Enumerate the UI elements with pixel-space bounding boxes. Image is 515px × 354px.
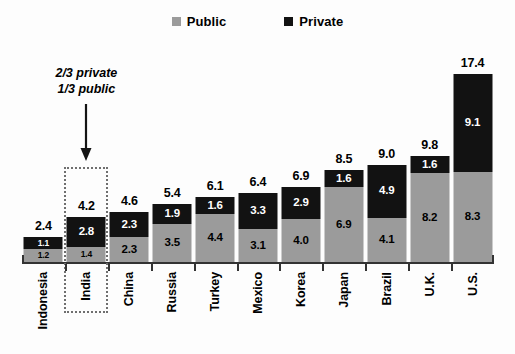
x-tick-label-mexico: Mexico	[237, 272, 280, 350]
bar-total-label: 6.1	[207, 179, 224, 193]
bar-total-label: 9.8	[421, 138, 438, 152]
bar-group[interactable]: 1.11.22.4	[22, 56, 65, 262]
x-axis-tick	[151, 264, 153, 271]
bar-total-label: 4.2	[78, 199, 95, 213]
bar-segment-public[interactable]: 8.3	[453, 172, 492, 262]
bar-segment-private[interactable]: 9.1	[453, 74, 492, 172]
stacked-bar-chart: Public Private 2/3 private 1/3 public 1.…	[0, 0, 515, 354]
bar-total-label: 17.4	[461, 56, 485, 70]
bar-group[interactable]: 9.18.317.4	[451, 56, 494, 262]
bar-total-label: 5.4	[164, 186, 181, 200]
x-axis-left-cap	[22, 255, 24, 264]
bar-group[interactable]: 3.33.16.4	[237, 56, 280, 262]
category-text: U.K.	[423, 272, 437, 297]
bar-stack[interactable]: 4.94.1	[367, 165, 406, 262]
x-tick-label-japan: Japan	[322, 272, 365, 350]
bar-segment-private[interactable]: 1.1	[24, 237, 63, 249]
category-text: Mexico	[251, 272, 265, 314]
bar-stack[interactable]: 9.18.3	[453, 74, 492, 262]
bar-segment-public[interactable]: 3.1	[238, 229, 277, 262]
x-tick-label-indonesia: Indonesia	[22, 272, 65, 350]
bar-value-public: 3.5	[164, 237, 179, 249]
x-tick-label-brazil: Brazil	[365, 272, 408, 350]
bar-total-label: 4.6	[121, 194, 138, 208]
bar-value-public: 6.9	[336, 219, 351, 231]
bar-value-private: 1.9	[164, 208, 179, 220]
x-axis-tick	[194, 264, 196, 271]
bar-segment-public[interactable]: 3.5	[153, 224, 192, 262]
x-tick-label-russia: Russia	[151, 272, 194, 350]
bar-value-private: 2.3	[122, 219, 137, 231]
x-axis-tick	[108, 264, 110, 271]
bar-group[interactable]: 1.66.98.5	[322, 56, 365, 262]
category-text: Brazil	[380, 272, 394, 305]
bar-value-private: 9.1	[465, 117, 480, 129]
bar-value-public: 2.3	[122, 244, 137, 256]
legend-swatch-private	[284, 17, 293, 26]
bar-stack[interactable]: 1.66.9	[324, 170, 363, 262]
bar-value-private: 2.8	[79, 226, 94, 238]
bar-group[interactable]: 2.94.06.9	[279, 56, 322, 262]
bar-total-label: 9.0	[378, 147, 395, 161]
bar-value-public: 1.2	[38, 251, 49, 260]
bar-value-private: 1.6	[422, 159, 437, 171]
bar-group[interactable]: 2.32.34.6	[108, 56, 151, 262]
bar-segment-public[interactable]: 6.9	[324, 187, 363, 262]
bar-value-private: 1.1	[38, 239, 49, 248]
bar-stack[interactable]: 1.64.4	[196, 197, 235, 262]
x-axis-tick	[365, 264, 367, 271]
bar-value-public: 3.1	[250, 240, 265, 252]
bar-segment-public[interactable]: 4.1	[367, 218, 406, 262]
bar-total-label: 8.5	[335, 152, 352, 166]
category-text: Russia	[165, 272, 179, 312]
bar-group[interactable]: 1.68.29.8	[408, 56, 451, 262]
bar-segment-private[interactable]: 2.3	[110, 212, 149, 237]
bar-group[interactable]: 4.94.19.0	[365, 56, 408, 262]
bar-segment-private[interactable]: 2.8	[67, 217, 106, 247]
bar-segment-public[interactable]: 4.4	[196, 214, 235, 262]
bar-value-public: 4.0	[293, 235, 308, 247]
bar-stack[interactable]: 2.81.4	[67, 217, 106, 262]
bar-total-label: 2.4	[35, 219, 52, 233]
bar-value-public: 8.3	[465, 211, 480, 223]
bar-segment-private[interactable]: 4.9	[367, 165, 406, 218]
bar-value-public: 4.1	[379, 234, 394, 246]
x-tick-label-uk: U.K.	[408, 272, 451, 350]
x-axis-line	[22, 262, 494, 264]
x-axis-category-labels: IndonesiaIndiaChinaRussiaTurkeyMexicoKor…	[22, 272, 494, 352]
x-axis-tick	[451, 264, 453, 271]
bar-value-private: 2.9	[293, 197, 308, 209]
bar-segment-private[interactable]: 1.6	[196, 197, 235, 214]
bar-segment-public[interactable]: 8.2	[410, 173, 449, 262]
bar-segment-private[interactable]: 2.9	[281, 187, 320, 218]
bar-stack[interactable]: 1.93.5	[153, 204, 192, 262]
chart-legend: Public Private	[0, 14, 515, 29]
bar-segment-private[interactable]: 1.6	[324, 170, 363, 187]
bar-stack[interactable]: 2.32.3	[110, 212, 149, 262]
bar-segment-private[interactable]: 1.6	[410, 156, 449, 173]
bar-group[interactable]: 2.81.44.2	[65, 56, 108, 262]
bar-segment-public[interactable]: 4.0	[281, 219, 320, 262]
x-tick-label-turkey: Turkey	[194, 272, 237, 350]
bar-segment-public[interactable]: 2.3	[110, 237, 149, 262]
bar-total-label: 6.9	[293, 169, 310, 183]
bar-segment-public[interactable]: 1.2	[24, 249, 63, 262]
bar-value-private: 3.3	[250, 205, 265, 217]
bar-group[interactable]: 1.93.55.4	[151, 56, 194, 262]
x-axis-tick	[237, 264, 239, 271]
category-text: U.S.	[466, 272, 480, 296]
bar-stack[interactable]: 2.94.0	[281, 187, 320, 262]
category-text: India	[79, 272, 93, 301]
bar-segment-public[interactable]: 1.4	[67, 247, 106, 262]
bar-stack[interactable]: 1.68.2	[410, 156, 449, 262]
bar-segment-private[interactable]: 3.3	[238, 193, 277, 229]
bar-stack[interactable]: 3.33.1	[238, 193, 277, 262]
bar-segment-private[interactable]: 1.9	[153, 204, 192, 225]
x-axis-tick	[279, 264, 281, 271]
bar-value-public: 4.4	[207, 232, 222, 244]
bar-group[interactable]: 1.64.46.1	[194, 56, 237, 262]
bar-value-private: 4.9	[379, 185, 394, 197]
bar-stack[interactable]: 1.11.2	[24, 237, 63, 262]
x-tick-label-us: U.S.	[451, 272, 494, 350]
bar-total-label: 6.4	[250, 175, 267, 189]
